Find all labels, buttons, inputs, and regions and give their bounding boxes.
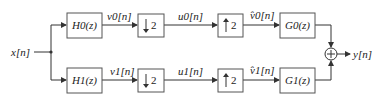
synthesis-filter-g1: G1(z) [280, 75, 315, 86]
synthesis-filter-g0: G0(z) [280, 20, 315, 31]
analysis-filter-h1: H1(z) [67, 75, 102, 86]
downsampler-bottom-factor: 2 [151, 75, 157, 86]
signal-v1-hat-label: v̂1[n] [250, 65, 274, 76]
output-signal-label: y[n] [353, 49, 372, 60]
signal-u1-label: u1[n] [178, 66, 203, 77]
input-signal-label: x[n] [11, 47, 30, 58]
upsampler-top-factor: 2 [231, 20, 237, 31]
signal-v0-hat-label: v̂0[n] [250, 10, 274, 21]
signal-u0-label: u0[n] [178, 11, 203, 22]
two-channel-filter-bank-diagram: x[n] y[n] H0(z) H1(z) G0(z) G1(z) 2 2 2 … [0, 0, 383, 104]
signal-v0-label: v0[n] [107, 11, 131, 22]
analysis-filter-h0: H0(z) [67, 20, 102, 31]
signal-v1-label: v1[n] [110, 66, 134, 77]
upsampler-bottom-factor: 2 [231, 75, 237, 86]
downsampler-top-factor: 2 [151, 20, 157, 31]
